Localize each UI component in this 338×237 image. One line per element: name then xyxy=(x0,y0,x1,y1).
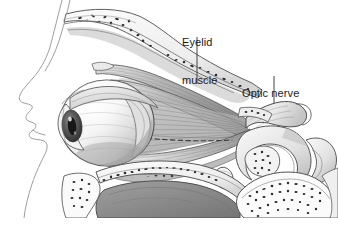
anatomical-illustration-figure: Eyelid muscle Optic nerve xyxy=(0,0,338,237)
label-eyelid-muscle-line1: Eyelid xyxy=(182,36,217,49)
label-eyelid-muscle-line2: muscle xyxy=(182,74,217,87)
label-optic-nerve-line1: Optic nerve xyxy=(242,87,299,100)
label-optic-nerve: Optic nerve xyxy=(242,62,299,125)
label-eyelid-muscle: Eyelid muscle xyxy=(182,11,217,111)
